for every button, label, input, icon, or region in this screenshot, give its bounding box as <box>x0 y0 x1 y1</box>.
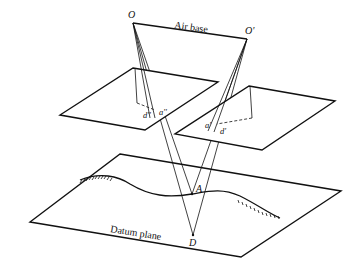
label-d-prime: d' <box>220 126 226 136</box>
label-A: A <box>195 183 203 194</box>
label-D: D <box>188 237 197 248</box>
point-A <box>191 193 193 195</box>
datum-plane <box>30 154 341 257</box>
right-photo-plane <box>175 86 335 150</box>
point-D <box>192 234 194 236</box>
label-O-prime: O' <box>245 25 255 36</box>
label-a-double-prime: a'' <box>159 107 167 117</box>
label-air-base: Air base <box>174 19 209 35</box>
stereo-photogrammetry-diagram: O O' Air base d'' a'' a' d' A D Datum pl… <box>0 0 357 273</box>
label-O: O <box>128 9 135 20</box>
label-a-prime: a' <box>205 120 211 130</box>
label-d-double-prime: d'' <box>143 110 151 120</box>
